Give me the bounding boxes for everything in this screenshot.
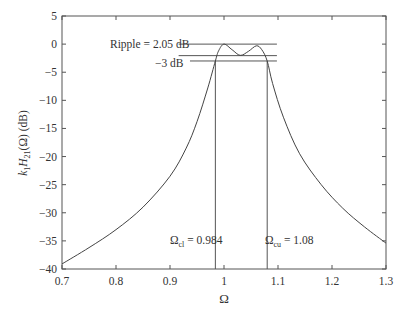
x-tick-label: 1.3 <box>379 275 394 287</box>
y-tick-label: 0 <box>51 38 57 50</box>
x-tick-label: 0.9 <box>163 275 178 287</box>
omega-cl-label: Ωcl = 0.984 <box>170 234 223 249</box>
x-axis-label: Ω <box>219 291 229 306</box>
x-tick-label: 1 <box>221 275 227 287</box>
y-tick-label: −35 <box>39 235 57 247</box>
x-tick-label: 0.8 <box>109 275 124 287</box>
response-curve <box>62 44 386 264</box>
y-tick-label: −25 <box>39 179 57 191</box>
x-tick-label: 0.7 <box>55 275 70 287</box>
y-axis-label: k1H21(Ω) (dB) <box>17 110 32 176</box>
x-axis-ticks: 0.70.80.911.11.21.3 <box>55 16 394 287</box>
filter-response-chart: 50−5−10−15−20−25−30−35−40 0.70.80.911.11… <box>0 0 404 316</box>
minus-3db-label: −3 dB <box>155 57 184 69</box>
omega-cu-label: Ωcu = 1.08 <box>265 234 314 249</box>
y-tick-label: −15 <box>39 122 57 134</box>
y-tick-label: 5 <box>51 10 57 22</box>
y-tick-label: −40 <box>39 263 57 275</box>
plot-axes <box>62 16 386 269</box>
plot-frame <box>62 16 386 269</box>
y-tick-label: −30 <box>39 207 57 219</box>
x-tick-label: 1.2 <box>325 275 340 287</box>
y-tick-label: −10 <box>39 94 57 106</box>
x-tick-label: 1.1 <box>271 275 286 287</box>
y-tick-label: −20 <box>39 151 57 163</box>
y-tick-label: −5 <box>45 66 57 78</box>
ripple-label: Ripple = 2.05 dB <box>110 38 190 51</box>
